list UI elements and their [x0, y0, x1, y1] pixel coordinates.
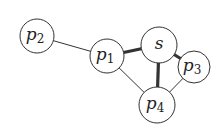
node-s: s	[141, 27, 177, 63]
node-label: s	[155, 33, 164, 53]
node-p3: p3	[178, 51, 210, 83]
node-p2: p2	[20, 19, 54, 53]
graph-diagram: p2p1sp3p4	[0, 0, 222, 132]
node-p4: p4	[139, 87, 175, 123]
nodes: p2p1sp3p4	[20, 19, 210, 123]
node-p1: p1	[90, 39, 124, 73]
